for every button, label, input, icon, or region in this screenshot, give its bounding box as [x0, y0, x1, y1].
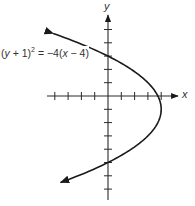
y-axis-label: y: [104, 0, 110, 12]
eq-part: = −4(: [35, 47, 62, 59]
equation-label: (y + 1)2 = −4(x − 4): [1, 46, 89, 59]
x-axis-label: x: [182, 88, 188, 100]
graph-canvas: [0, 0, 195, 206]
eq-part: − 4): [68, 47, 89, 59]
eq-part: + 1): [10, 47, 31, 59]
